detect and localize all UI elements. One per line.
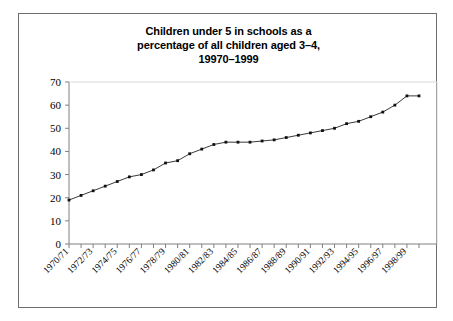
x-tick-label: 1980/81 — [162, 246, 191, 275]
chart-figure: Children under 5 in schools as a percent… — [18, 13, 437, 308]
x-tick-label: 1988/89 — [259, 246, 288, 275]
y-tick-label: 50 — [50, 122, 62, 134]
data-point-marker — [164, 162, 167, 165]
y-tick-label: 30 — [50, 169, 62, 181]
x-tick-label: 1990/91 — [283, 246, 312, 275]
data-point-marker — [393, 104, 396, 107]
data-point-marker — [418, 94, 421, 97]
x-tick-label: 1984/85 — [210, 246, 239, 275]
data-point-marker — [68, 199, 71, 202]
y-axis: 010203040506070 — [50, 76, 437, 250]
y-tick-label: 10 — [50, 215, 62, 227]
data-point-marker — [297, 134, 300, 137]
data-point-marker — [128, 175, 131, 178]
data-point-marker — [92, 189, 95, 192]
x-tick-labels: 1970/711972/731974/751976/771978/791980/… — [41, 246, 408, 275]
data-point-marker — [249, 141, 252, 144]
data-point-marker — [333, 127, 336, 130]
y-tick-label: 60 — [50, 99, 62, 111]
data-point-marker — [212, 143, 215, 146]
y-tick-label: 40 — [50, 145, 62, 157]
data-point-marker — [80, 194, 83, 197]
data-point-marker — [152, 169, 155, 172]
x-axis — [69, 244, 437, 248]
x-tick-label: 1976/77 — [114, 246, 143, 275]
x-tick-label: 1972/73 — [65, 246, 94, 275]
y-tick-label: 70 — [50, 76, 62, 88]
data-point-marker — [116, 180, 119, 183]
x-tick-label: 1994/95 — [331, 246, 360, 275]
data-point-marker — [200, 148, 203, 151]
data-point-marker — [345, 122, 348, 125]
data-point-marker — [261, 140, 264, 143]
data-point-marker — [406, 94, 409, 97]
x-tick-label: 1998/99 — [379, 246, 408, 275]
data-point-marker — [225, 141, 228, 144]
data-point-marker — [104, 185, 107, 188]
data-point-marker — [381, 111, 384, 114]
data-point-marker — [285, 136, 288, 139]
data-point-marker — [309, 132, 312, 135]
x-tick-label: 1982/83 — [186, 246, 215, 275]
data-series-line — [69, 96, 419, 200]
plot-area: 010203040506070 1970/711972/731974/75197… — [19, 14, 438, 309]
data-point-markers — [68, 94, 421, 201]
data-point-marker — [321, 129, 324, 132]
x-tick-label: 1970/71 — [41, 246, 70, 275]
x-tick-label: 1986/87 — [234, 246, 263, 275]
y-tick-label: 20 — [50, 192, 62, 204]
line-chart-svg: 010203040506070 1970/711972/731974/75197… — [19, 14, 438, 309]
x-tick-label: 1978/79 — [138, 246, 167, 275]
data-point-marker — [188, 152, 191, 155]
data-point-marker — [357, 120, 360, 123]
data-point-marker — [369, 115, 372, 118]
data-point-marker — [273, 138, 276, 141]
data-point-marker — [140, 173, 143, 176]
data-point-marker — [176, 159, 179, 162]
data-point-marker — [237, 141, 240, 144]
x-tick-label: 1992/93 — [307, 246, 336, 275]
x-tick-label: 1974/75 — [90, 246, 119, 275]
x-tick-label: 1996/97 — [355, 246, 384, 275]
